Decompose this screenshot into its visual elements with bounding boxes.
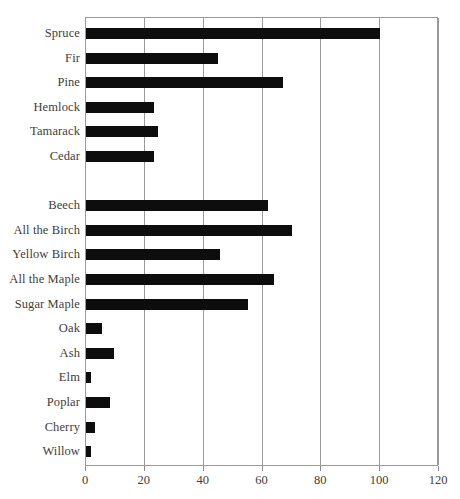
bar — [86, 323, 102, 334]
x-tick-label: 80 — [314, 472, 327, 488]
x-tick-label: 100 — [370, 472, 389, 488]
bar-row: Beech — [0, 193, 460, 217]
bar-label: Sugar Maple — [0, 292, 80, 316]
x-tick-label: 20 — [138, 472, 151, 488]
bar — [86, 102, 154, 113]
bar — [86, 372, 91, 383]
x-tick — [203, 466, 204, 471]
bar — [86, 200, 268, 211]
bar-row: Willow — [0, 439, 460, 463]
bar-label: Poplar — [0, 390, 80, 414]
bar-label: Cherry — [0, 415, 80, 439]
x-tick — [438, 466, 439, 471]
bar-label: Hemlock — [0, 95, 80, 119]
bar — [86, 53, 218, 64]
bar — [86, 446, 91, 457]
bar-row: Tamarack — [0, 119, 460, 143]
bar-label: Cedar — [0, 144, 80, 168]
bar-row: Cedar — [0, 144, 460, 168]
x-tick — [144, 466, 145, 471]
bar-row: All the Birch — [0, 218, 460, 242]
bar-label: Pine — [0, 70, 80, 94]
bar-label: Spruce — [0, 21, 80, 45]
bar-label: Elm — [0, 365, 80, 389]
bar-label: Beech — [0, 193, 80, 217]
bar-row: Ash — [0, 341, 460, 365]
bar-label: Ash — [0, 341, 80, 365]
bar — [86, 274, 274, 285]
bar — [86, 299, 248, 310]
x-tick-label: 0 — [82, 472, 88, 488]
bar-label: Oak — [0, 316, 80, 340]
x-tick — [85, 466, 86, 471]
bar — [86, 77, 283, 88]
bar — [86, 28, 380, 39]
bar-label: All the Birch — [0, 218, 80, 242]
bar-label: All the Maple — [0, 267, 80, 291]
bar-label: Fir — [0, 46, 80, 70]
bar — [86, 225, 292, 236]
bar — [86, 397, 110, 408]
bar-row: Cherry — [0, 415, 460, 439]
bar — [86, 151, 154, 162]
bar-row: Fir — [0, 46, 460, 70]
bar — [86, 126, 158, 137]
x-tick-label: 120 — [429, 472, 448, 488]
bar-label: Yellow Birch — [0, 242, 80, 266]
x-tick — [379, 466, 380, 471]
bar-row: Pine — [0, 70, 460, 94]
x-tick — [320, 466, 321, 471]
bar-row: Elm — [0, 365, 460, 389]
bar-label: Willow — [0, 439, 80, 463]
x-tick — [262, 466, 263, 471]
bar-row: Yellow Birch — [0, 242, 460, 266]
bar-row: All the Maple — [0, 267, 460, 291]
bar-row: Poplar — [0, 390, 460, 414]
bar-label: Tamarack — [0, 119, 80, 143]
bar-row: Hemlock — [0, 95, 460, 119]
bar-row: Spruce — [0, 21, 460, 45]
bar — [86, 249, 220, 260]
bar-row: Oak — [0, 316, 460, 340]
x-tick-label: 40 — [196, 472, 209, 488]
bar — [86, 348, 114, 359]
bar — [86, 422, 95, 433]
bar-chart: SpruceFirPineHemlockTamarackCedarBeechAl… — [0, 0, 460, 499]
x-tick-label: 60 — [255, 472, 268, 488]
bar-row — [0, 169, 460, 193]
bar-row: Sugar Maple — [0, 292, 460, 316]
